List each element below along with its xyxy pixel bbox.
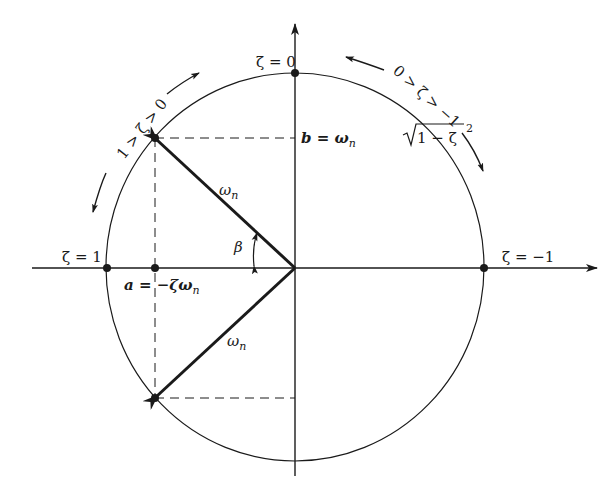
label-range-negative: 0 > ζ > −1 bbox=[389, 62, 463, 132]
range-arrow-up-right bbox=[346, 57, 384, 70]
label-omega-upper: ωn bbox=[219, 181, 238, 202]
range-arrow-down-right bbox=[462, 133, 483, 171]
beta-arc bbox=[253, 233, 257, 266]
label-b: b = ωn bbox=[301, 129, 356, 150]
lower-pole bbox=[151, 394, 159, 402]
label-zeta-zero: ζ = 0 bbox=[256, 53, 296, 71]
range-arrow-down-left bbox=[93, 173, 106, 212]
s-plane-diagram: ζ = 0 ζ = 1 ζ = −1 1 > ζ > 0 0 > ζ > −1 … bbox=[0, 0, 603, 482]
a-point bbox=[151, 264, 159, 272]
label-a: a = −ζωn bbox=[124, 276, 200, 297]
omega-upper-vector bbox=[157, 140, 295, 268]
zeta-minus-one-point bbox=[480, 264, 488, 272]
label-beta: β bbox=[233, 238, 243, 256]
upper-pole bbox=[151, 134, 159, 142]
label-zeta-one: ζ = 1 bbox=[62, 248, 102, 266]
label-omega-lower: ωn bbox=[227, 332, 246, 353]
label-zeta-minus-one: ζ = −1 bbox=[502, 248, 554, 266]
range-arrow-up-left bbox=[167, 73, 199, 94]
label-b-sup: 2 bbox=[466, 122, 473, 135]
label-b-sqrt: 1 − ζ bbox=[417, 129, 457, 147]
zeta-one-point bbox=[103, 264, 111, 272]
